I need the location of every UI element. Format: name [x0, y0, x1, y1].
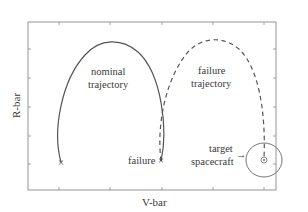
target-label-line1: target [209, 143, 233, 154]
target-center-dot [263, 159, 265, 161]
nominal-label-line1: nominal [91, 66, 125, 77]
y-axis-label: R-bar [10, 93, 22, 118]
failure-trajectory-label-line2: trajectory [191, 78, 232, 89]
nominal-label-line2: trajectory [88, 79, 129, 90]
target-arrow-icon: → [236, 149, 247, 160]
failure-point-label: failure [128, 155, 156, 166]
nominal-trajectory [58, 42, 164, 162]
target-label-line2: spacecraft [191, 156, 234, 167]
rendezvous-diagram: × × nominal trajectory failure trajector… [0, 0, 308, 212]
failure-trajectory-label-line1: failure [198, 65, 226, 76]
start-marker: × [58, 157, 64, 168]
x-axis-label: V-bar [142, 196, 167, 208]
failure-marker: × [158, 155, 164, 166]
